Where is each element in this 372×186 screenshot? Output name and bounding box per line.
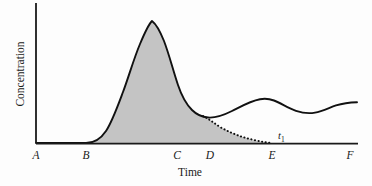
t1-subscript: 1 [281,135,285,144]
figure-container: A B C D E F t1 Time Concentration [0,0,372,186]
concentration-vs-time-chart: A B C D E F t1 Time Concentration [0,0,372,186]
t1-annotation-label: t1 [278,130,285,144]
x-tick-label-e: E [267,149,275,161]
x-axis-title: Time [178,166,202,178]
shaded-peak-area [86,21,272,143]
x-tick-label-c: C [173,149,181,161]
x-tick-label-b: B [82,149,89,161]
y-axis-title: Concentration [14,41,26,106]
x-tick-label-f: F [345,149,354,161]
x-tick-label-a: A [31,149,40,161]
x-tick-label-d: D [205,149,215,161]
